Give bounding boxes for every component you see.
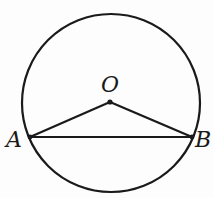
diagram-svg: O A B [0, 0, 213, 198]
label-o: O [101, 72, 119, 97]
geometry-diagram: O A B [0, 0, 213, 198]
point-a-dot [28, 135, 33, 140]
point-b-dot [190, 135, 195, 140]
segment-oa [30, 102, 110, 137]
label-a: A [4, 127, 22, 152]
point-o-dot [107, 99, 112, 104]
label-b: B [194, 127, 211, 152]
segment-ob [110, 102, 192, 137]
